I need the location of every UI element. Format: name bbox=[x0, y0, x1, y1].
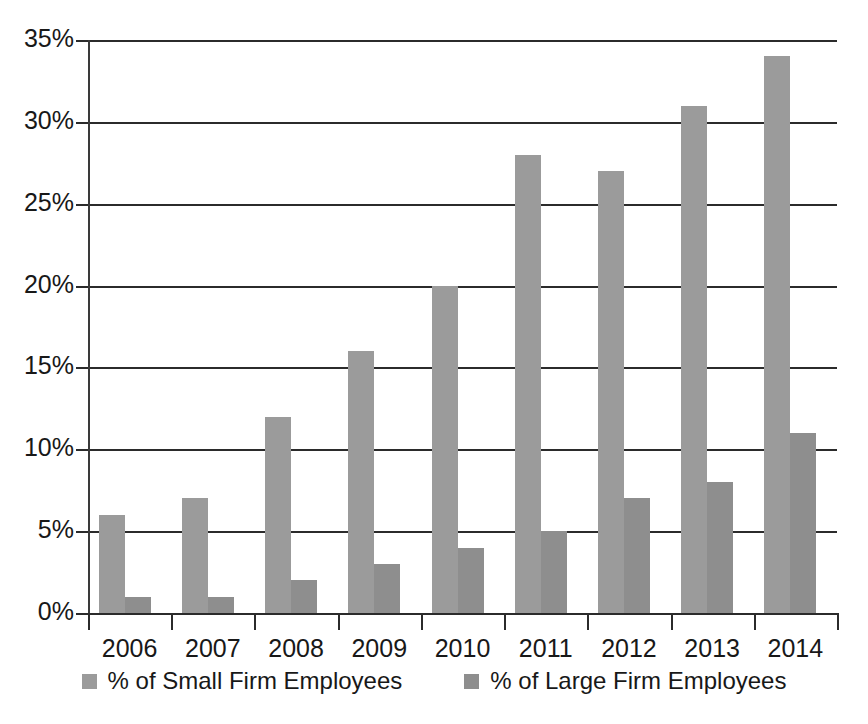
plot-area bbox=[88, 40, 837, 613]
chart-legend: % of Small Firm Employees % of Large Fir… bbox=[0, 668, 868, 694]
y-tick-25pct bbox=[76, 204, 88, 206]
legend-label-large-firm: % of Large Firm Employees bbox=[490, 668, 786, 694]
grouped-bar-chart: 0%5%10%15%20%25%30%35% 20062007200820092… bbox=[0, 0, 868, 724]
x-tick-2010 bbox=[421, 613, 423, 630]
bar-small-firm-2013 bbox=[681, 106, 707, 614]
bar-large-firm-2010 bbox=[458, 548, 484, 613]
bar-large-firm-2011 bbox=[541, 531, 567, 613]
bar-small-firm-2006 bbox=[99, 515, 125, 613]
bar-small-firm-2008 bbox=[265, 417, 291, 613]
bar-small-firm-2007 bbox=[182, 498, 208, 613]
bar-small-firm-2014 bbox=[764, 56, 790, 613]
bar-large-firm-2008 bbox=[291, 580, 317, 613]
x-tick-2009 bbox=[338, 613, 340, 630]
y-tick-10pct bbox=[76, 449, 88, 451]
bar-small-firm-2009 bbox=[348, 351, 374, 613]
x-tick-label-2012: 2012 bbox=[584, 634, 674, 662]
gridline-20pct bbox=[88, 286, 837, 288]
y-tick-15pct bbox=[76, 367, 88, 369]
x-tick-label-2009: 2009 bbox=[334, 634, 424, 662]
bar-large-firm-2013 bbox=[707, 482, 733, 613]
y-tick-label: 20% bbox=[0, 272, 74, 297]
small-firm-swatch-icon bbox=[82, 674, 97, 689]
y-tick-label: 0% bbox=[0, 599, 74, 624]
x-tick-2007 bbox=[171, 613, 173, 630]
x-tick-2012 bbox=[587, 613, 589, 630]
gridline-35pct bbox=[88, 40, 837, 42]
y-tick-label: 25% bbox=[0, 190, 74, 215]
x-tick-label-2008: 2008 bbox=[251, 634, 341, 662]
bar-small-firm-2012 bbox=[598, 171, 624, 613]
y-tick-label: 5% bbox=[0, 517, 74, 542]
large-firm-swatch-icon bbox=[464, 674, 479, 689]
legend-item-large-firm: % of Large Firm Employees bbox=[464, 668, 786, 694]
y-axis-line bbox=[88, 40, 90, 615]
legend-label-small-firm: % of Small Firm Employees bbox=[108, 668, 403, 694]
x-tick-label-2006: 2006 bbox=[85, 634, 175, 662]
y-tick-30pct bbox=[76, 122, 88, 124]
x-axis-line bbox=[86, 613, 839, 615]
gridline-30pct bbox=[88, 122, 837, 124]
x-tick-2006 bbox=[88, 613, 90, 630]
x-tick-label-2007: 2007 bbox=[168, 634, 258, 662]
x-tick-2014 bbox=[754, 613, 756, 630]
gridline-10pct bbox=[88, 449, 837, 451]
y-tick-label: 15% bbox=[0, 353, 74, 378]
x-tick-label-2014: 2014 bbox=[750, 634, 840, 662]
bar-large-firm-2007 bbox=[208, 597, 234, 613]
y-tick-35pct bbox=[76, 40, 88, 42]
x-tick-2008 bbox=[254, 613, 256, 630]
x-tick-2013 bbox=[671, 613, 673, 630]
y-tick-5pct bbox=[76, 531, 88, 533]
bar-large-firm-2014 bbox=[790, 433, 816, 613]
bar-small-firm-2011 bbox=[515, 155, 541, 613]
x-tick-label-2013: 2013 bbox=[667, 634, 757, 662]
x-tick-label-2011: 2011 bbox=[501, 634, 591, 662]
y-tick-label: 30% bbox=[0, 108, 74, 133]
bar-large-firm-2012 bbox=[624, 498, 650, 613]
y-tick-20pct bbox=[76, 286, 88, 288]
bar-large-firm-2006 bbox=[125, 597, 151, 613]
x-tick-label-2010: 2010 bbox=[418, 634, 508, 662]
y-tick-label: 35% bbox=[0, 26, 74, 51]
x-tick-end bbox=[837, 613, 839, 630]
legend-item-small-firm: % of Small Firm Employees bbox=[82, 668, 403, 694]
y-tick-label: 10% bbox=[0, 435, 74, 460]
x-tick-2011 bbox=[504, 613, 506, 630]
bar-large-firm-2009 bbox=[374, 564, 400, 613]
gridline-15pct bbox=[88, 367, 837, 369]
bar-small-firm-2010 bbox=[432, 286, 458, 613]
gridline-25pct bbox=[88, 204, 837, 206]
